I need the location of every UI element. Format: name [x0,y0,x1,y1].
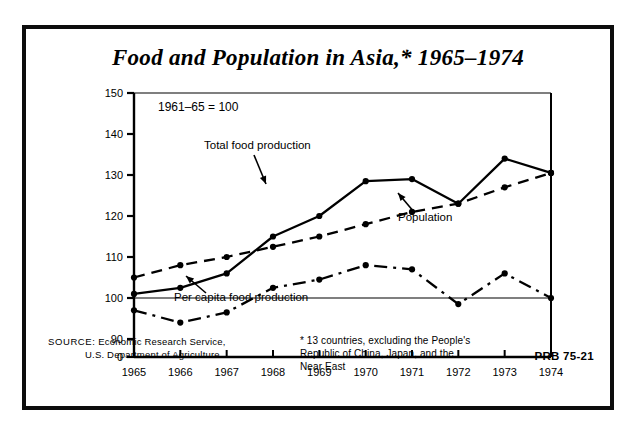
data-point [502,156,508,162]
data-point [131,307,137,313]
data-point [316,233,322,239]
y-tick-label: 100 [105,292,123,304]
data-point [131,274,137,280]
data-point [363,178,369,184]
footnote-line-2: Republic of China, Japan, and the [300,347,470,360]
source-label: SOURCE: [48,336,95,347]
data-point [409,176,415,182]
series-line-total-food-production [134,159,551,294]
data-point [363,221,369,227]
data-point [270,233,276,239]
source-line-2: U.S. Department of Agriculture [48,349,226,362]
data-point [548,170,554,176]
footnote-line-1: * 13 countries, excluding the People's [300,334,470,347]
data-point [363,262,369,268]
data-point [224,270,230,276]
annotation-per-capita-food-production: Per capita food production [174,291,308,303]
data-point [270,285,276,291]
y-tick-label: 150 [105,87,123,99]
data-point [177,320,183,326]
data-point [548,295,554,301]
data-point [316,277,322,283]
footnote-line-3: Near East [300,360,470,373]
data-point [177,262,183,268]
y-tick-label: 140 [105,128,123,140]
y-tick-label: 130 [105,169,123,181]
data-point [131,291,137,297]
source-note: SOURCE: Economic Research Service, U.S. … [48,336,226,361]
data-point [455,201,461,207]
publication-code: PRB 75-21 [534,350,594,362]
source-line-1: Economic Research Service, [98,336,225,347]
data-point [502,270,508,276]
data-point [270,244,276,250]
poster-frame: Food and Population in Asia,* 1965–1974 … [22,25,614,410]
annotation-arrow-total-food-head [260,176,266,185]
footnote: * 13 countries, excluding the People's R… [300,334,470,373]
data-point [502,184,508,190]
annotation-population: Population [398,211,452,223]
data-point [316,213,322,219]
data-point [224,254,230,260]
data-point [224,309,230,315]
data-point [409,266,415,272]
y-tick-label: 110 [105,251,123,263]
series-line-population [134,173,551,278]
chart-footer: SOURCE: Economic Research Service, U.S. … [26,334,610,396]
index-note: 1961–65 = 100 [158,100,239,114]
y-tick-label: 120 [105,210,123,222]
data-point [455,301,461,307]
annotation-total-food-production: Total food production [204,139,311,151]
data-point [177,285,183,291]
